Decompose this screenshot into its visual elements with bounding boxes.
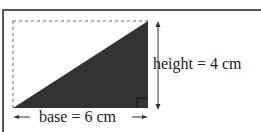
base-label: base = 6 cm xyxy=(39,108,116,126)
height-label: height = 4 cm xyxy=(153,55,242,73)
base-right-arrow-icon xyxy=(132,115,148,119)
right-triangle xyxy=(13,21,148,108)
base-left-arrow-icon xyxy=(13,115,30,119)
